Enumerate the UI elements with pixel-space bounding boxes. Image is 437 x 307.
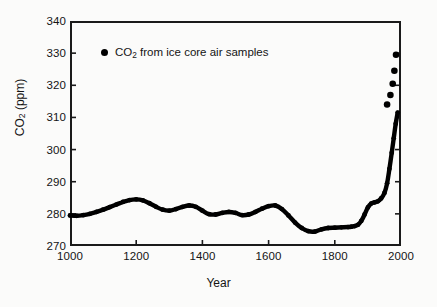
x-tick-label: 2000	[371, 250, 431, 262]
legend-label: CO2 from ice core air samples	[115, 46, 269, 60]
x-axis-tick-labels: 100012001400160018002000	[0, 250, 437, 268]
y-axis-title: CO2 (ppm)	[13, 57, 28, 157]
x-tick-label: 1800	[305, 250, 365, 262]
y-axis-title-units: (ppm)	[13, 79, 27, 114]
x-tick-label: 1200	[106, 250, 166, 262]
y-tick-label: 290	[20, 176, 66, 188]
legend: CO2 from ice core air samples	[101, 46, 269, 60]
legend-label-tail: from ice core air samples	[137, 46, 269, 58]
legend-marker-icon	[101, 49, 108, 56]
y-tick-label: 280	[20, 208, 66, 220]
x-tick-label: 1000	[40, 250, 100, 262]
y-tick-label: 340	[20, 15, 66, 27]
co2-ice-core-chart: 340330320310300290280270 CO2 (ppm) CO2 f…	[0, 0, 437, 307]
y-axis-title-base: CO	[13, 118, 27, 136]
y-axis-title-subscript: 2	[17, 113, 27, 118]
x-axis-title: Year	[0, 276, 437, 290]
legend-label-base: CO	[115, 46, 132, 58]
x-tick-label: 1400	[172, 250, 232, 262]
x-tick-label: 1600	[239, 250, 299, 262]
